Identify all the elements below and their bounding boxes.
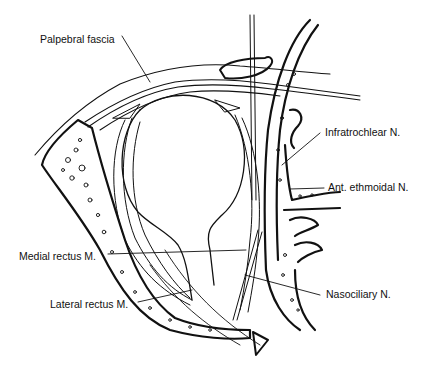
label-lateral-rectus-m: Lateral rectus M. <box>50 298 128 310</box>
label-palpebral-fascia: Palpebral fascia <box>40 33 115 45</box>
label-nasociliary-n: Nasociliary N. <box>326 288 391 300</box>
label-infratrochlear-n: Infratrochlear N. <box>325 126 400 138</box>
bone-fragment <box>253 332 268 355</box>
eyeball <box>113 95 244 300</box>
palpebral-fascia-layers <box>35 65 360 155</box>
label-medial-rectus-m: Medial rectus M. <box>19 250 96 262</box>
label-ant-ethmoidal-n: Ant. ethmoidal N. <box>328 181 409 193</box>
lateral-rectus-muscle <box>114 118 192 305</box>
